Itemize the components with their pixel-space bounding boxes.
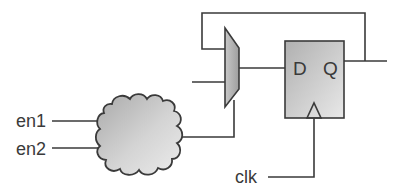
circuit-diagram: D Q clk en1 en2	[0, 0, 402, 192]
logic-cloud	[96, 94, 182, 175]
q-pin-label: Q	[323, 58, 338, 79]
clk-wire	[268, 118, 314, 177]
en2-label: en2	[16, 139, 46, 159]
clk-label: clk	[235, 167, 258, 187]
d-pin-label: D	[293, 58, 307, 79]
d-flip-flop: D Q	[285, 41, 344, 118]
multiplexer	[225, 28, 239, 107]
en1-label: en1	[16, 111, 46, 131]
